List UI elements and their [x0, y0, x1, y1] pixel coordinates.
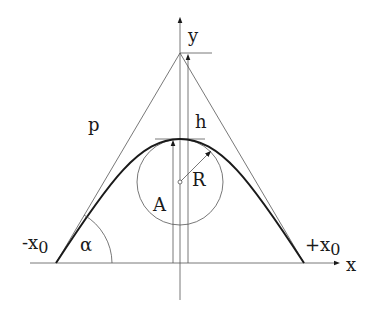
x-axis-label: x [346, 254, 356, 275]
minus-x0-label: -x0 [22, 232, 48, 257]
h-label: h [195, 111, 207, 132]
catenary-arch-diagram: y x h R A p α -x0 +x0 [0, 0, 379, 309]
left-tangent-line [56, 53, 180, 263]
p-label: p [88, 114, 100, 135]
A-label: A [152, 194, 167, 215]
y-axis-label: y [187, 25, 199, 46]
right-tangent-line [180, 53, 304, 263]
R-label: R [192, 169, 206, 190]
plus-x0-label: +x0 [305, 234, 340, 259]
alpha-label: α [80, 234, 92, 255]
